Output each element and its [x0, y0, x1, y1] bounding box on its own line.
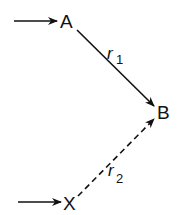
reaction-diagram: A B X r 1 r 2 — [0, 0, 184, 215]
node-a-label: A — [60, 11, 73, 32]
edge-r2-label: r — [108, 161, 115, 180]
edge-r1-subscript: 1 — [116, 52, 123, 67]
node-x-label: X — [63, 193, 76, 214]
edge-a-to-b — [77, 30, 154, 106]
edge-r1-label: r — [107, 44, 114, 63]
edge-r2-subscript: 2 — [116, 171, 123, 186]
node-b-label: B — [157, 102, 170, 123]
